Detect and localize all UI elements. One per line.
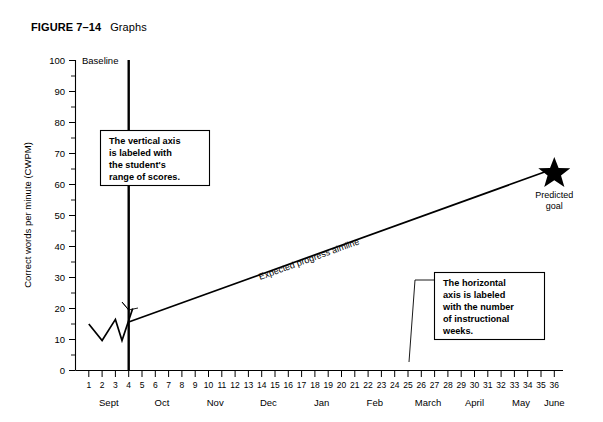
- x-tick-label: 8: [180, 380, 185, 390]
- vertical-axis-callout-line: range of scores.: [109, 172, 180, 182]
- x-tick-label: 31: [483, 380, 493, 390]
- month-labels: Sept Oct Nov Dec Jan Feb March April May…: [99, 397, 565, 408]
- x-tick-label: 36: [550, 380, 560, 390]
- x-tick-label: 28: [443, 380, 453, 390]
- y-tick-label: 100: [49, 55, 65, 66]
- y-tick-label: 30: [54, 272, 65, 283]
- x-tick-label: 34: [523, 380, 533, 390]
- x-tick-label: 26: [417, 380, 427, 390]
- figure-container: FIGURE 7–14Graphs 100 90 80 70 60 50 40 …: [0, 0, 603, 422]
- x-tick-label: 1: [86, 380, 91, 390]
- x-tick-label: 32: [496, 380, 506, 390]
- vertical-axis-callout-line: is labeled with: [109, 148, 172, 158]
- month-label: Feb: [367, 397, 383, 408]
- progress-monitoring-chart: 100 90 80 70 60 50 40 30 20 10 0: [0, 0, 603, 422]
- month-label: Nov: [207, 397, 224, 408]
- y-axis-ticks: 100 90 80 70 60 50 40 30 20 10 0: [49, 55, 75, 376]
- x-tick-label: 19: [323, 380, 333, 390]
- x-tick-label: 18: [310, 380, 320, 390]
- y-tick-label: 20: [54, 303, 65, 314]
- x-tick-label: 16: [284, 380, 294, 390]
- x-axis-ticks: 1 2 3 4 5 6 7 8 9 10 11 12 13 1: [86, 371, 559, 391]
- x-tick-label: 30: [470, 380, 480, 390]
- y-tick-label: 90: [54, 86, 65, 97]
- x-tick-label: 7: [166, 380, 171, 390]
- horizontal-axis-callout-line: weeks.: [442, 326, 473, 336]
- y-tick-label: 80: [54, 117, 65, 128]
- horizontal-axis-callout-line: with the number: [442, 302, 514, 312]
- x-tick-label: 14: [257, 380, 267, 390]
- month-label: June: [544, 397, 565, 408]
- y-tick-label: 0: [60, 365, 65, 376]
- horizontal-axis-callout-line: of instructional: [443, 314, 509, 324]
- x-tick-label: 5: [140, 380, 145, 390]
- x-tick-label: 20: [337, 380, 347, 390]
- x-tick-label: 9: [193, 380, 198, 390]
- month-label: Dec: [260, 397, 277, 408]
- x-tick-label: 21: [350, 380, 360, 390]
- y-axis-title: Correct words per minute (CWPM): [22, 142, 33, 288]
- x-tick-label: 10: [204, 380, 214, 390]
- month-label: Jan: [314, 397, 329, 408]
- x-tick-label: 27: [430, 380, 440, 390]
- y-tick-label: 40: [54, 241, 65, 252]
- vertical-axis-callout-line: The vertical axis: [109, 136, 181, 146]
- x-tick-label: 13: [244, 380, 254, 390]
- horizontal-axis-callout-line: axis is labeled: [443, 290, 505, 300]
- baseline-data-series: [89, 309, 133, 341]
- baseline-label: Baseline: [82, 55, 118, 66]
- x-tick-label: 15: [270, 380, 280, 390]
- y-tick-label: 50: [54, 210, 65, 221]
- x-tick-label: 29: [456, 380, 466, 390]
- x-tick-label: 22: [363, 380, 373, 390]
- x-tick-label: 2: [100, 380, 105, 390]
- vertical-axis-callout-line: the student's: [109, 160, 166, 170]
- y-tick-label: 70: [54, 148, 65, 159]
- aimline-label: Expected progress aimline: [257, 237, 360, 282]
- month-label: April: [465, 397, 484, 408]
- horizontal-axis-callout-line: The horizontal: [443, 278, 506, 288]
- x-tick-label: 4: [126, 380, 131, 390]
- x-tick-label: 12: [230, 380, 240, 390]
- predicted-goal-label-line2: goal: [546, 201, 563, 211]
- x-tick-label: 17: [297, 380, 307, 390]
- x-tick-label: 33: [510, 380, 520, 390]
- x-tick-label: 35: [536, 380, 546, 390]
- y-tick-label: 60: [54, 179, 65, 190]
- y-tick-label: 10: [54, 334, 65, 345]
- x-tick-label: 11: [217, 380, 226, 390]
- x-tick-label: 24: [390, 380, 400, 390]
- month-label: Sept: [99, 397, 119, 408]
- predicted-goal-star: [538, 157, 570, 187]
- predicted-goal-label-line1: Predicted: [535, 190, 573, 200]
- x-tick-label: 23: [377, 380, 387, 390]
- x-tick-label: 3: [113, 380, 118, 390]
- x-tick-label: 6: [153, 380, 158, 390]
- month-label: Oct: [155, 397, 170, 408]
- month-label: March: [415, 397, 441, 408]
- horizontal-axis-callout-leader: [409, 280, 434, 362]
- vertical-axis-callout-leader: [122, 195, 138, 310]
- x-tick-label: 25: [403, 380, 413, 390]
- month-label: May: [512, 397, 530, 408]
